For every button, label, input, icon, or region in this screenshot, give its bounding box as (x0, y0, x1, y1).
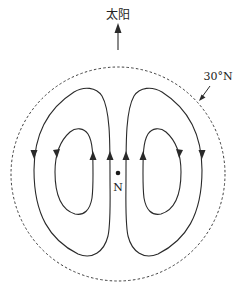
arrow-up-icon (123, 151, 130, 160)
sun-label: 太阳 (106, 7, 130, 22)
arrow-down-icon (53, 149, 60, 158)
left-inner-loop (55, 129, 93, 215)
right-outer-loop (126, 88, 202, 256)
arrow-down-icon (199, 150, 206, 159)
right-inner-loop (143, 129, 181, 215)
latitude-label: 30°N (203, 70, 232, 83)
north-pole-dot (116, 171, 121, 176)
arrow-down-icon (31, 150, 38, 159)
polar-circulation-diagram: 太阳 30°N N (0, 0, 234, 284)
arrow-down-icon (176, 149, 183, 158)
arrow-up-icon (140, 151, 147, 160)
left-outer-loop (34, 88, 110, 256)
arrow-up-icon (107, 151, 114, 160)
pole-label: N (113, 181, 123, 194)
arrow-up-icon (90, 151, 97, 160)
latitude-pointer-icon (199, 86, 210, 101)
sun-arrow-icon (115, 23, 122, 50)
